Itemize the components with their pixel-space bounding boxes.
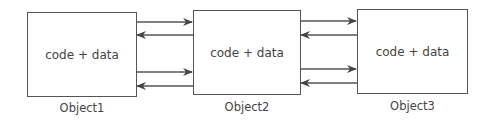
object2-content: code + data: [210, 46, 284, 60]
object1-label: Object1: [27, 101, 137, 115]
object3-box: code + data: [357, 9, 468, 94]
object1-box: code + data: [27, 12, 137, 97]
object3-content: code + data: [376, 45, 450, 59]
object2-box: code + data: [193, 10, 301, 95]
object2-label: Object2: [193, 100, 301, 114]
object1-content: code + data: [45, 48, 119, 62]
object3-label: Object3: [357, 99, 468, 113]
diagram-canvas: code + data Object1 code + data Object2 …: [0, 0, 492, 121]
